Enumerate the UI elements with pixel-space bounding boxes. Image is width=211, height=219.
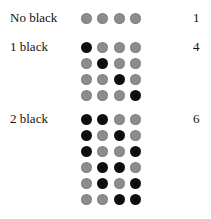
black-circle-icon — [97, 178, 108, 189]
black-circle-icon — [81, 130, 92, 141]
gray-circle-icon — [114, 58, 125, 69]
gray-circle-icon — [97, 130, 108, 141]
black-circle-icon — [130, 146, 141, 157]
gray-circle-icon — [97, 13, 108, 24]
black-circle-icon — [114, 194, 125, 205]
gray-circle-icon — [81, 194, 92, 205]
gray-circle-icon — [97, 42, 108, 53]
gray-circle-icon — [81, 162, 92, 173]
gray-circle-icon — [97, 74, 108, 85]
black-circle-icon — [114, 162, 125, 173]
gray-circle-icon — [81, 74, 92, 85]
black-circle-icon — [114, 74, 125, 85]
gray-circle-icon — [114, 114, 125, 125]
gray-circle-icon — [130, 130, 141, 141]
gray-circle-icon — [81, 13, 92, 24]
gray-circle-icon — [114, 13, 125, 24]
gray-circle-icon — [114, 90, 125, 101]
black-circle-icon — [130, 178, 141, 189]
black-circle-icon — [130, 194, 141, 205]
gray-circle-icon — [114, 178, 125, 189]
gray-circle-icon — [130, 13, 141, 24]
gray-circle-icon — [114, 42, 125, 53]
gray-circle-icon — [97, 194, 108, 205]
gray-circle-icon — [130, 114, 141, 125]
gray-circle-icon — [81, 178, 92, 189]
black-circle-icon — [97, 114, 108, 125]
group-label-no-black: No black — [10, 11, 57, 25]
group-label-1-black: 1 black — [10, 40, 48, 54]
black-circle-icon — [114, 130, 125, 141]
gray-circle-icon — [81, 90, 92, 101]
gray-circle-icon — [130, 42, 141, 53]
gray-circle-icon — [130, 162, 141, 173]
black-circle-icon — [130, 90, 141, 101]
black-circle-icon — [81, 114, 92, 125]
black-circle-icon — [97, 58, 108, 69]
black-circle-icon — [81, 146, 92, 157]
gray-circle-icon — [130, 74, 141, 85]
gray-circle-icon — [97, 146, 108, 157]
black-circle-icon — [97, 162, 108, 173]
gray-circle-icon — [81, 58, 92, 69]
group-count-no-black: 1 — [193, 11, 200, 25]
gray-circle-icon — [97, 90, 108, 101]
gray-circle-icon — [114, 146, 125, 157]
group-count-2-black: 6 — [193, 112, 200, 126]
black-circle-icon — [81, 42, 92, 53]
gray-circle-icon — [130, 58, 141, 69]
group-label-2-black: 2 black — [10, 112, 48, 126]
group-count-1-black: 4 — [193, 40, 200, 54]
